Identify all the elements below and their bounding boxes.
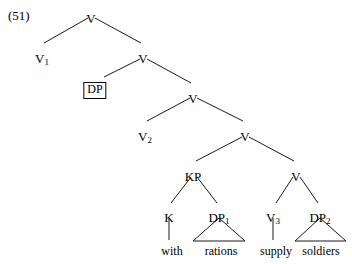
node-label-text: V [86,11,95,26]
node-label-text: K [164,210,173,225]
tree-node-v-4th: V [240,130,249,143]
node-label-text: V [266,210,275,225]
node-label-text: V [291,169,300,184]
tree-node-dp2: DP2 [309,211,330,224]
node-label-subscript: 2 [147,135,152,145]
tree-node-dp1: DP1 [208,211,229,224]
tree-node-v1: V1 [35,52,49,65]
node-label-text: V [35,51,44,66]
tree-node-v-root: V [86,12,95,25]
syntax-tree-figure: (51) VV1VDPVV2VKPVKDP1V3DP2withrationssu… [0,0,352,264]
tree-node-v2: V2 [138,130,152,143]
tree-edge-v-4th-to-kp [196,137,242,161]
node-label-text: V [138,51,147,66]
tree-leaf-soldiers: soldiers [302,245,339,257]
node-label-text: DP [309,210,326,225]
node-label-subscript: 1 [44,57,49,67]
tree-edge-v-4th-to-v-5th [249,137,294,161]
tree-node-dp-boxed: DP [83,82,106,99]
node-label-text: KP [185,169,202,184]
tree-node-k: K [164,211,173,224]
tree-branch-lines [0,0,352,264]
node-label-subscript: 1 [225,216,230,226]
tree-node-v-5th: V [291,170,300,183]
node-label-text: V [188,91,197,106]
tree-edge-v-2nd-to-dp-boxed [104,59,140,77]
node-label-text: DP [87,82,102,96]
node-label-text: DP [208,210,225,225]
tree-leaf-supply: supply [260,245,292,257]
node-label-subscript: 2 [326,216,331,226]
tree-edge-v-root-to-v-2nd [95,18,141,43]
tree-node-kp: KP [185,170,202,183]
tree-node-v-2nd: V [138,52,147,65]
tree-edge-v-3rd-to-v2 [147,98,190,121]
tree-edge-v-5th-to-dp2 [300,177,318,203]
tree-node-v3: V3 [266,211,280,224]
tree-edge-v-2nd-to-v-3rd [147,59,191,83]
tree-edge-v-root-to-v1 [44,18,88,43]
tree-edge-v-3rd-to-v-4th [197,98,243,121]
node-label-subscript: 3 [275,216,280,226]
tree-leaf-rations: rations [205,245,238,257]
node-label-text: V [138,129,147,144]
tree-node-v-3rd: V [188,92,197,105]
tree-leaf-with: with [161,245,182,257]
node-label-text: V [240,129,249,144]
